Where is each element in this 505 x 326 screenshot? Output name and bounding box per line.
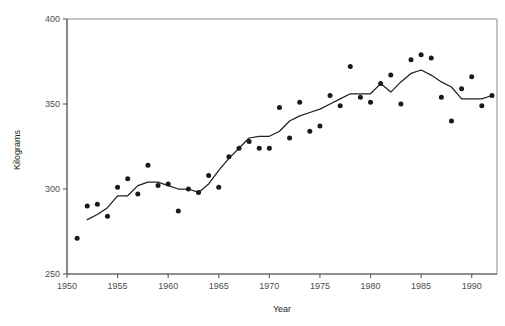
data-point [216, 185, 221, 190]
data-point [267, 146, 272, 151]
scatter-chart: 250300350400 195019551960196519701975198… [0, 0, 505, 326]
data-point [176, 209, 181, 214]
data-point [449, 119, 454, 124]
data-point [95, 202, 100, 207]
data-point [358, 95, 363, 100]
data-point [186, 187, 191, 192]
data-points-group [75, 52, 495, 241]
data-point [419, 52, 424, 57]
data-point [105, 214, 110, 219]
x-tick-label: 1960 [158, 281, 178, 291]
data-point [348, 64, 353, 69]
data-point [166, 181, 171, 186]
data-point [156, 183, 161, 188]
x-tick-label: 1950 [57, 281, 77, 291]
smoothed-trend-line [87, 70, 492, 220]
data-point [85, 204, 90, 209]
y-tick-label: 300 [45, 184, 60, 194]
data-point [226, 154, 231, 159]
data-point [277, 105, 282, 110]
data-point [287, 136, 292, 141]
data-point [196, 190, 201, 195]
data-point [368, 100, 373, 105]
data-point [115, 185, 120, 190]
data-point [378, 81, 383, 86]
y-axis-title: Kilograms [12, 129, 22, 170]
data-point [135, 192, 140, 197]
data-point [247, 139, 252, 144]
trend-line-group [87, 70, 492, 220]
x-tick-label: 1955 [108, 281, 128, 291]
data-point [75, 236, 80, 241]
data-point [145, 163, 150, 168]
data-point [297, 100, 302, 105]
x-tick-label: 1990 [462, 281, 482, 291]
data-point [307, 129, 312, 134]
x-tick-label: 1970 [259, 281, 279, 291]
data-point [398, 102, 403, 107]
data-point [388, 73, 393, 78]
data-point [125, 176, 130, 181]
x-tick-label: 1985 [411, 281, 431, 291]
x-tick-label: 1980 [361, 281, 381, 291]
y-tick-label: 350 [45, 99, 60, 109]
data-point [459, 86, 464, 91]
x-tick-label: 1975 [310, 281, 330, 291]
x-axis-title: Year [273, 304, 291, 314]
data-point [328, 93, 333, 98]
y-tick-label: 400 [45, 14, 60, 24]
data-point [237, 146, 242, 151]
data-point [338, 103, 343, 108]
x-axis-ticks: 195019551960196519701975198019851990 [57, 274, 482, 291]
chart-container: 250300350400 195019551960196519701975198… [0, 0, 505, 326]
data-point [409, 57, 414, 62]
data-point [439, 95, 444, 100]
data-point [429, 56, 434, 61]
data-point [206, 173, 211, 178]
data-point [489, 93, 494, 98]
y-tick-label: 250 [45, 269, 60, 279]
y-axis-ticks: 250300350400 [45, 14, 67, 279]
x-tick-label: 1965 [209, 281, 229, 291]
data-point [479, 103, 484, 108]
data-point [257, 146, 262, 151]
data-point [469, 74, 474, 79]
data-point [317, 124, 322, 129]
